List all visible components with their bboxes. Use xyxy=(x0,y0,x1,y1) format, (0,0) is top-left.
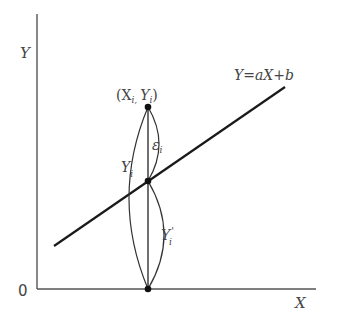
predicted-value-label: Y'i xyxy=(161,225,174,247)
observed-point-label: (Xi,Yi) xyxy=(116,87,158,105)
regression-equation-label: Y=aX+b xyxy=(234,67,294,83)
residual-label: εi xyxy=(152,137,163,155)
predicted-point xyxy=(145,178,152,185)
regression-line xyxy=(54,87,285,246)
x-axis-label: X xyxy=(294,294,307,312)
observed-value-brace xyxy=(129,107,148,289)
regression-diagram: Y X 0 (Xi,Yi) Y=aX+b εi Yi Y'i xyxy=(0,0,338,329)
y-axis-label: Y xyxy=(20,44,32,62)
x-intercept-point xyxy=(145,286,152,293)
origin-label: 0 xyxy=(18,282,28,300)
